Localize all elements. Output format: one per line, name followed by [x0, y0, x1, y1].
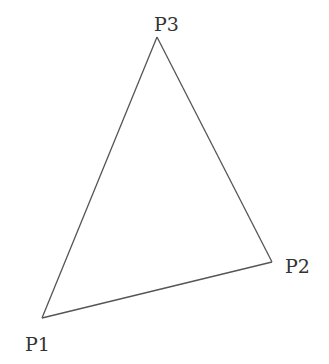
edge-p1-p2	[42, 262, 272, 318]
vertex-label-p2: P2	[285, 255, 310, 277]
edge-p3-p1	[42, 37, 157, 318]
edge-p2-p3	[157, 37, 272, 262]
triangle-diagram: P3 P2 P1	[0, 0, 329, 364]
vertex-label-p1: P1	[25, 333, 50, 355]
vertex-label-p3: P3	[154, 13, 179, 35]
